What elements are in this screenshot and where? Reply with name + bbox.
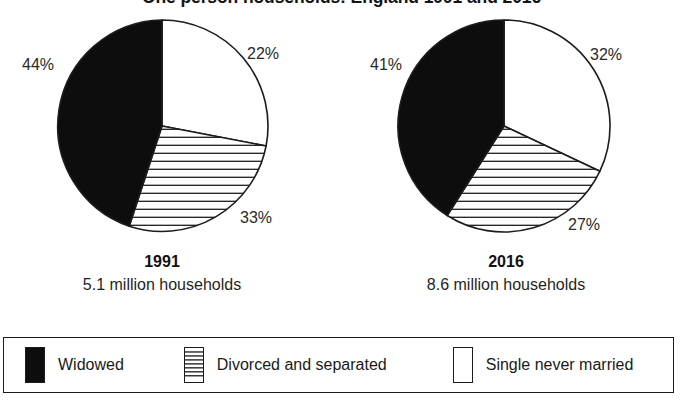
pie-label-divorced-2016: 27% [568,216,600,234]
pie-chart-figure: One person households: England 1991 and … [0,0,683,402]
page-title: One person households: England 1991 and … [0,0,683,8]
legend-label-widowed: Widowed [58,356,124,374]
caption-year-2016: 2016 [356,252,656,272]
legend-item-divorced: Divorced and separated [184,347,387,383]
pie-svg-2016 [396,18,612,234]
pie-svg-1991 [54,18,270,234]
pie-label-single-2016: 32% [590,46,622,64]
caption-households-1991: 5.1 million households [12,274,312,296]
legend-item-widowed: Widowed [25,347,124,383]
pie-label-single-1991: 22% [247,45,279,63]
caption-households-2016: 8.6 million households [356,274,656,296]
pie-slice-single-1991 [162,20,268,146]
legend-item-single: Single never married [453,347,634,383]
legend-label-divorced: Divorced and separated [217,356,387,374]
pie-chart-2016 [396,18,612,234]
legend-swatch-widowed-icon [25,347,45,383]
legend-label-single: Single never married [486,356,634,374]
pie-label-divorced-1991: 33% [240,209,272,227]
legend-swatch-divorced-icon [184,347,204,383]
pie-label-widowed-1991: 44% [22,56,54,74]
pie-chart-1991 [54,18,270,234]
caption-1991: 1991 5.1 million households [12,252,312,296]
legend-swatch-single-icon [453,347,473,383]
caption-year-1991: 1991 [12,252,312,272]
hatch-pattern-icon [185,348,203,382]
legend: Widowed Divorced and separated Single ne… [3,337,674,393]
caption-2016: 2016 8.6 million households [356,252,656,296]
pie-label-widowed-2016: 41% [370,56,402,74]
